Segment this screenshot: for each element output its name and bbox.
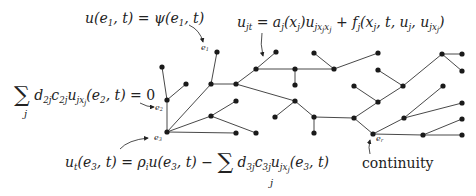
- node-label-er: er: [376, 134, 383, 143]
- dirichlet-equation: u(e1,t) = ψ(e1,t) u(e1, t) = ψ(e1, t): [85, 10, 204, 28]
- robin-equation: u_t(e3,t) = ρ_i u(e3,t) − Σ_j d_3j c_3j …: [65, 147, 329, 174]
- node-label-e1: e1: [201, 43, 209, 52]
- neumann-equation: Σ_j d_2j c_2j u_{j x_j}(e2,t) = 0 ∑j d2j…: [14, 80, 155, 107]
- network-diagram: u(e1,t) = ψ(e1,t) u(e1, t) = ψ(e1, t) u_…: [0, 0, 476, 196]
- node-label-e2: e2: [155, 103, 163, 112]
- graph-edges: [162, 52, 462, 135]
- graph-nodes: [159, 49, 464, 137]
- node-label-e3: e3: [154, 133, 162, 142]
- pde-equation: u_jt = a_j(x_j) u_{j x_j x_j} + f_j(x_j,…: [237, 14, 445, 34]
- continuity-annotation: continuity: [362, 155, 433, 171]
